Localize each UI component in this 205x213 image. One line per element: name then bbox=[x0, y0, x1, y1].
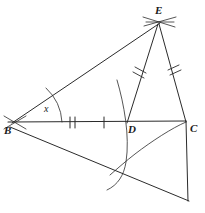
segment-CF bbox=[186, 121, 188, 201]
vertex-label-D: D bbox=[128, 124, 136, 135]
vertex-label-C: C bbox=[190, 123, 197, 134]
tick-BD-double bbox=[70, 117, 75, 128]
segment-BC bbox=[8, 121, 186, 122]
segment-BE bbox=[12, 23, 160, 123]
arc-through-D-vertical bbox=[107, 80, 127, 190]
segment-EC bbox=[159, 24, 186, 122]
angle-label-x: x bbox=[44, 104, 48, 114]
vertex-label-E: E bbox=[155, 5, 162, 16]
vertex-label-B: B bbox=[4, 125, 11, 136]
geometry-canvas bbox=[0, 0, 205, 213]
segment-BF bbox=[10, 127, 189, 201]
arc-from-C-sweep bbox=[110, 122, 186, 175]
tick-EC-double bbox=[168, 65, 181, 75]
segment-ED bbox=[127, 24, 158, 123]
geometry-diagram: B D C E x bbox=[0, 0, 205, 213]
